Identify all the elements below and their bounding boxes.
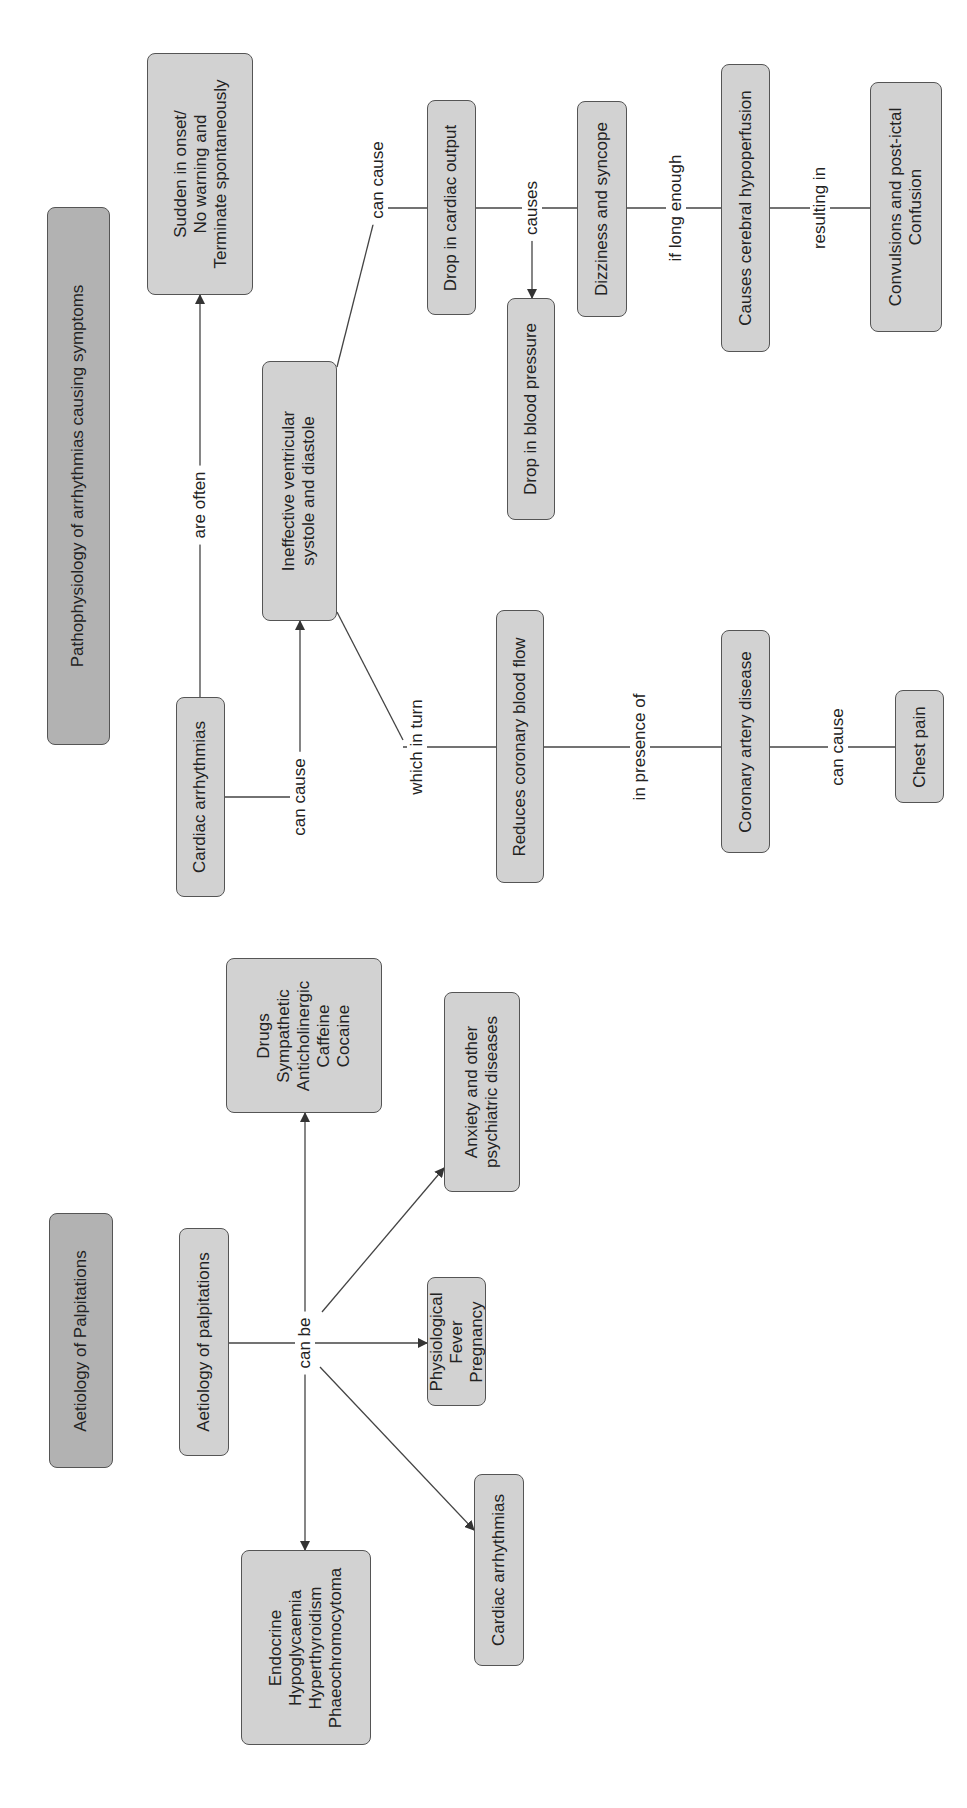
node-physiological: Physiological Fever Pregnancy	[427, 1277, 486, 1406]
node-drop-blood-pressure: Drop in blood pressure	[507, 298, 555, 520]
link-can-cause-ineffective	[225, 621, 300, 797]
node-endocrine-text: Endocrine Hypoglycaemia Hyperthyroidism …	[266, 1567, 346, 1728]
node-convulsions: Convulsions and post-ictal Confusion	[870, 82, 942, 332]
label-can-cause-1: can cause	[290, 752, 310, 842]
node-physiological-text: Physiological Fever Pregnancy	[427, 1292, 486, 1391]
node-coronary-artery-disease-text: Coronary artery disease	[736, 651, 756, 832]
node-reduces-coronary: Reduces coronary blood flow	[496, 610, 544, 883]
node-drop-cardiac-output: Drop in cardiac output	[427, 100, 476, 315]
node-drugs: Drugs Sympathetic Anticholinergic Caffei…	[226, 958, 382, 1113]
node-cardiac-arrhythmias-top: Cardiac arrhythmias	[176, 697, 225, 897]
label-which-in-turn: which in turn	[407, 693, 427, 800]
node-sudden-onset: Sudden in onset/ No warning and Terminat…	[147, 53, 253, 295]
node-cerebral-hypoperfusion-text: Causes cerebral hypoperfusion	[736, 90, 756, 325]
node-dizziness-syncope-text: Dizziness and syncope	[592, 122, 612, 296]
node-chest-pain-text: Chest pain	[910, 706, 930, 787]
link-which-in-turn-diag	[337, 612, 403, 740]
label-can-cause-3: can cause	[828, 702, 848, 792]
label-causes: causes	[522, 175, 542, 241]
node-cardiac-arrhythmias-bottom-text: Cardiac arrhythmias	[489, 1494, 509, 1646]
node-endocrine: Endocrine Hypoglycaemia Hyperthyroidism …	[241, 1550, 371, 1745]
label-can-cause-2: can cause	[368, 135, 388, 225]
node-reduces-coronary-text: Reduces coronary blood flow	[510, 637, 530, 856]
node-cardiac-arrhythmias-top-text: Cardiac arrhythmias	[191, 721, 211, 873]
label-can-be: can be	[295, 1311, 315, 1374]
title-pathophysiology: Pathophysiology of arrhythmias causing s…	[47, 207, 110, 745]
node-drop-blood-pressure-text: Drop in blood pressure	[521, 323, 541, 495]
node-anxiety-text: Anxiety and other psychiatric diseases	[462, 1016, 502, 1168]
link-hub-anxiety	[322, 1168, 444, 1312]
node-drop-cardiac-output-text: Drop in cardiac output	[442, 124, 462, 290]
label-resulting-in: resulting in	[810, 161, 830, 255]
node-cerebral-hypoperfusion: Causes cerebral hypoperfusion	[721, 64, 770, 352]
node-sudden-onset-text: Sudden in onset/ No warning and Terminat…	[170, 79, 230, 268]
label-are-often: are often	[190, 465, 210, 544]
title-pathophysiology-text: Pathophysiology of arrhythmias causing s…	[69, 285, 89, 668]
node-ineffective-ventricular-text: Ineffective ventricular systole and dias…	[280, 411, 320, 571]
node-convulsions-text: Convulsions and post-ictal Confusion	[886, 108, 926, 306]
node-drugs-text: Drugs Sympathetic Anticholinergic Caffei…	[254, 980, 354, 1091]
label-if-long-enough: if long enough	[666, 149, 686, 268]
node-coronary-artery-disease: Coronary artery disease	[721, 630, 770, 853]
node-aetiology-palpitations-text: Aetiology of palpitations	[194, 1252, 214, 1432]
title-aetiology-text: Aetiology of Palpitations	[71, 1250, 91, 1431]
link-ineffective-to-can-cause	[337, 205, 378, 367]
node-anxiety: Anxiety and other psychiatric diseases	[444, 992, 520, 1192]
node-aetiology-palpitations: Aetiology of palpitations	[179, 1228, 229, 1456]
label-in-presence-of: in presence of	[630, 688, 650, 807]
node-dizziness-syncope: Dizziness and syncope	[577, 101, 627, 317]
title-aetiology: Aetiology of Palpitations	[49, 1213, 113, 1468]
node-chest-pain: Chest pain	[895, 690, 944, 803]
node-cardiac-arrhythmias-bottom: Cardiac arrhythmias	[474, 1474, 524, 1666]
node-ineffective-ventricular: Ineffective ventricular systole and dias…	[262, 361, 337, 621]
